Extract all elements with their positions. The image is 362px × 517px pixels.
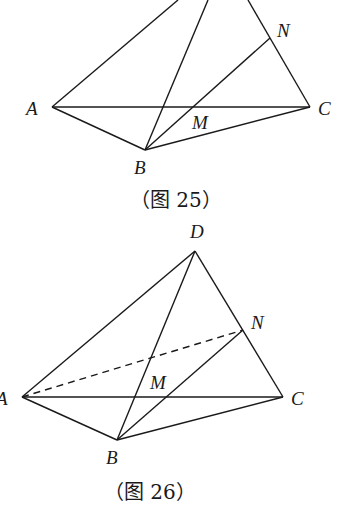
label-B: B bbox=[106, 447, 118, 468]
edge-BD bbox=[117, 251, 195, 440]
label-N: N bbox=[250, 312, 265, 333]
figure-caption: （图 25） bbox=[130, 188, 222, 212]
edge-CD bbox=[195, 251, 283, 397]
label-N: N bbox=[276, 20, 291, 41]
figure-25: A C B M N （图 25） bbox=[24, 0, 331, 212]
edge-AD bbox=[52, 0, 178, 107]
label-A: A bbox=[0, 388, 8, 409]
edge-AD bbox=[22, 251, 195, 397]
figure-26: A C B D M N （图 26） bbox=[0, 221, 304, 504]
edge-AB bbox=[52, 107, 145, 150]
figure-caption: （图 26） bbox=[104, 480, 196, 504]
label-M: M bbox=[191, 112, 209, 133]
label-D: D bbox=[189, 221, 204, 242]
edge-AB bbox=[22, 397, 117, 440]
label-M: M bbox=[149, 372, 167, 393]
label-C: C bbox=[291, 388, 304, 409]
segment-AN-dashed bbox=[22, 330, 243, 397]
label-C: C bbox=[318, 98, 331, 119]
geometry-figures: A C B M N （图 25） A C B D M N （图 26） bbox=[0, 0, 362, 517]
label-A: A bbox=[24, 98, 38, 119]
label-B: B bbox=[134, 157, 146, 178]
edge-CD bbox=[248, 0, 310, 107]
